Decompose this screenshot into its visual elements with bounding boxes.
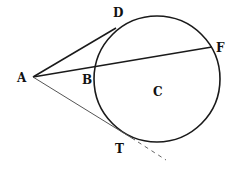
label-point-f: F [216, 41, 225, 55]
label-point-b: B [82, 73, 92, 87]
circle-tangent-secant-diagram: A D B F C T [0, 0, 237, 172]
label-point-a: A [16, 71, 27, 85]
label-center-c: C [153, 85, 163, 99]
circle-c [94, 16, 220, 142]
label-point-t: T [115, 142, 124, 156]
label-point-d: D [113, 6, 123, 20]
tangent-extension-dashed [138, 142, 166, 160]
